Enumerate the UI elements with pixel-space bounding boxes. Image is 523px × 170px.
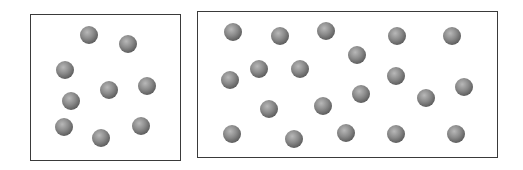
particles-layer (0, 0, 523, 170)
particle-icon (55, 118, 73, 136)
particle-icon (387, 125, 405, 143)
particle-icon (221, 71, 239, 89)
particle-icon (132, 117, 150, 135)
particle-icon (352, 85, 370, 103)
particle-icon (80, 26, 98, 44)
particle-icon (443, 27, 461, 45)
particle-icon (317, 22, 335, 40)
particle-icon (119, 35, 137, 53)
particle-icon (388, 27, 406, 45)
particle-icon (260, 100, 278, 118)
particle-icon (447, 125, 465, 143)
particle-icon (250, 60, 268, 78)
particle-icon (92, 129, 110, 147)
particle-icon (387, 67, 405, 85)
particle-icon (291, 60, 309, 78)
particle-icon (138, 77, 156, 95)
particle-icon (223, 125, 241, 143)
particle-icon (100, 81, 118, 99)
particle-icon (56, 61, 74, 79)
particle-icon (224, 23, 242, 41)
particle-icon (62, 92, 80, 110)
particle-icon (337, 124, 355, 142)
particle-icon (314, 97, 332, 115)
particle-icon (271, 27, 289, 45)
particle-icon (285, 130, 303, 148)
particle-icon (417, 89, 435, 107)
particle-icon (455, 78, 473, 96)
particle-icon (348, 46, 366, 64)
